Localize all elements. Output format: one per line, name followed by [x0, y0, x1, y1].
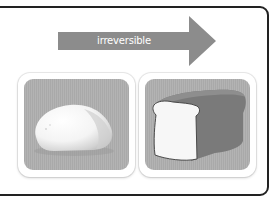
dough-icon — [24, 79, 129, 170]
dough-panel — [18, 73, 135, 177]
arrow-label: irreversible — [58, 32, 190, 50]
dough-tile — [24, 79, 129, 170]
bread-tile — [145, 79, 250, 170]
bread-panel — [139, 73, 256, 177]
bread-loaf-icon — [145, 79, 250, 170]
